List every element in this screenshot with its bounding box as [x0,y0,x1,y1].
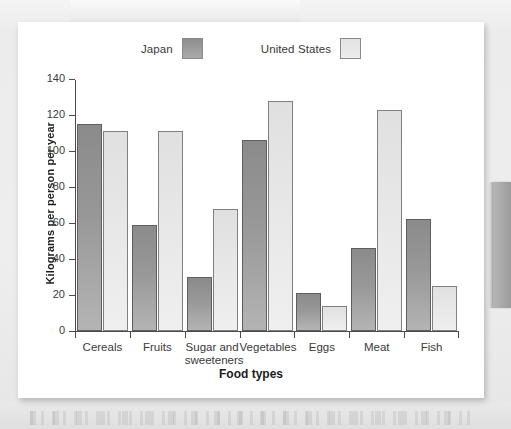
x-tick-separator-6 [404,332,405,338]
y-tick-label-80: 80 [53,180,65,192]
legend-label-united-states: United States [261,43,331,55]
y-tick-label-140: 140 [47,72,65,84]
y-tick-120: 120 [69,115,75,116]
japan-swatch-icon [182,38,203,59]
page-edge-tab [493,182,511,308]
bar-japan-sugar-and-sweeteners [187,277,212,331]
bar-united-states-sugar-and-sweeteners [213,209,238,331]
y-tick-80: 80 [69,187,75,188]
x-tick-separator-4 [294,332,295,338]
y-tick-60: 60 [69,223,75,224]
x-tick-separator-3 [240,332,241,338]
bar-united-states-fish [432,286,457,331]
bar-japan-vegetables [242,140,267,331]
plot-area: 020406080100120140 [75,80,459,332]
legend-label-japan: Japan [141,43,173,55]
chart-legend: Japan United States [18,38,484,59]
bar-japan-fish [406,219,431,331]
y-tick-label-100: 100 [47,144,65,156]
bar-united-states-meat [377,110,402,331]
bar-japan-fruits [132,225,157,331]
y-tick-20: 20 [69,295,75,296]
x-category-label-eggs: Eggs [294,341,349,354]
x-tick-separator-2 [185,332,186,338]
x-category-label-fish: Fish [404,341,459,354]
x-category-label-fruits: Fruits [130,341,185,354]
bar-united-states-vegetables [268,101,293,331]
y-tick-label-0: 0 [59,324,65,336]
y-tick-label-40: 40 [53,252,65,264]
legend-item-united-states: United States [261,38,361,59]
bar-japan-cereals [77,124,102,331]
scan-artifact-top [70,0,300,22]
bar-japan-eggs [296,293,321,331]
chart-figure: Japan United States Kilograms per person… [18,22,484,398]
x-category-label-vegetables: Vegetables [240,341,295,354]
y-tick-label-60: 60 [53,216,65,228]
bar-united-states-cereals [103,131,128,331]
x-axis-line [75,331,459,332]
y-tick-100: 100 [69,151,75,152]
x-tick-separator-5 [349,332,350,338]
y-axis-line [75,80,76,332]
x-tick-separator-1 [130,332,131,338]
united-states-swatch-icon [340,38,361,59]
scan-artifact-text-smudge [30,411,470,425]
bar-united-states-fruits [158,131,183,331]
legend-item-japan: Japan [141,38,203,59]
bar-japan-meat [351,248,376,331]
x-tick-end-0 [75,332,76,338]
bar-united-states-eggs [322,306,347,331]
x-category-label-sugar-and: Sugar and sweeteners [185,341,240,367]
y-tick-label-120: 120 [47,108,65,120]
y-tick-40: 40 [69,259,75,260]
y-tick-label-20: 20 [53,288,65,300]
x-category-label-cereals: Cereals [75,341,130,354]
x-tick-end-1 [458,332,459,338]
y-tick-140: 140 [69,79,75,80]
x-category-label-meat: Meat [349,341,404,354]
x-axis-title: Food types [18,367,484,381]
